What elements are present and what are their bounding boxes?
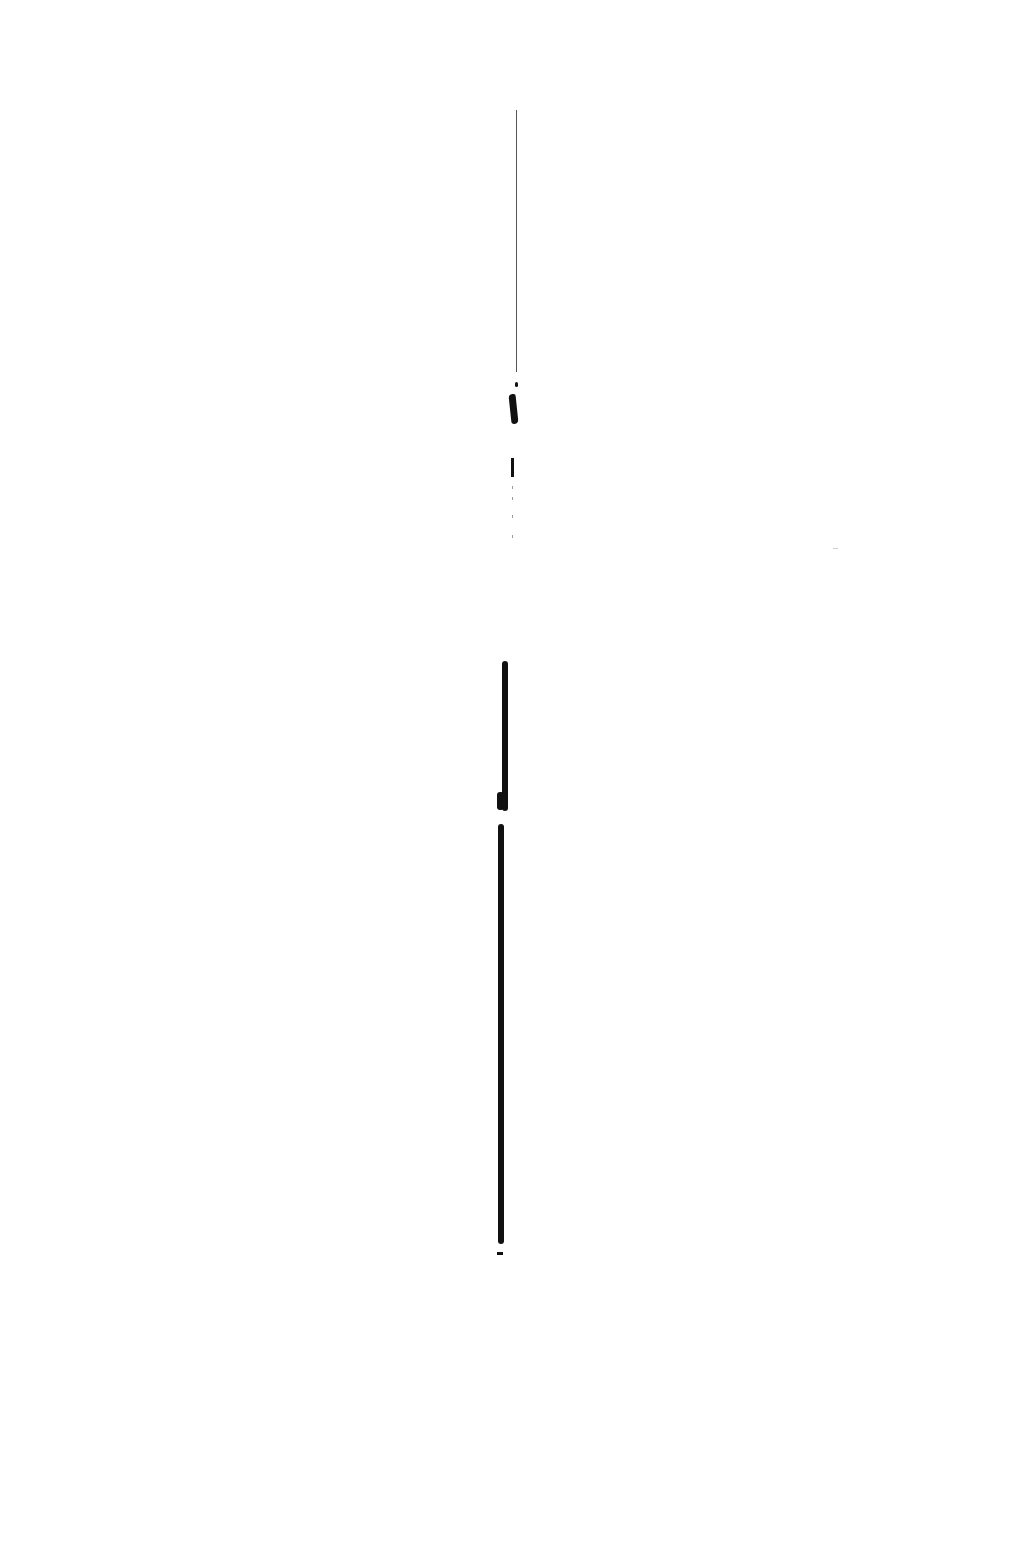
thick-vertical-line-lower bbox=[498, 824, 504, 1244]
thick-line-knot bbox=[497, 792, 504, 810]
ink-blob bbox=[508, 394, 518, 425]
scanned-page bbox=[0, 0, 1022, 1549]
ink-dash bbox=[511, 458, 514, 477]
ink-speck bbox=[512, 515, 513, 518]
thin-vertical-line bbox=[516, 110, 517, 372]
ink-speck bbox=[512, 535, 513, 538]
ink-speck bbox=[512, 486, 513, 489]
line-tail-tick bbox=[497, 1252, 503, 1255]
faint-scan-mark bbox=[833, 548, 838, 549]
ink-dot bbox=[515, 382, 518, 387]
ink-speck bbox=[512, 497, 513, 500]
thick-vertical-line-upper bbox=[502, 661, 508, 811]
